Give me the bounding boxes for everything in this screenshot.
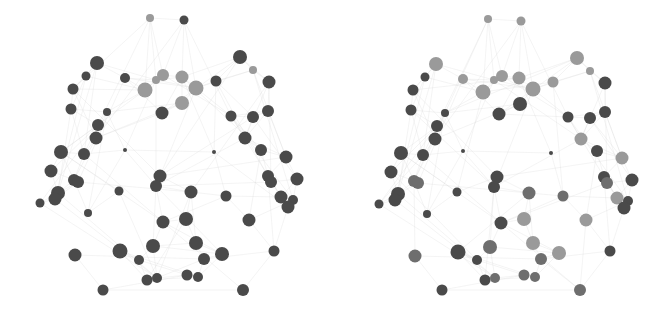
graph-node bbox=[453, 188, 462, 197]
graph-node bbox=[103, 108, 111, 116]
graph-edge bbox=[86, 76, 145, 90]
graph-edge bbox=[501, 196, 563, 223]
graph-edge bbox=[414, 181, 415, 256]
graph-node bbox=[69, 249, 82, 262]
graph-node bbox=[558, 191, 569, 202]
graph-edge bbox=[150, 18, 156, 80]
graph-edge bbox=[75, 255, 103, 290]
graph-node bbox=[549, 151, 553, 155]
graph-edge bbox=[413, 90, 497, 177]
graph-node bbox=[146, 239, 160, 253]
graph-node bbox=[255, 144, 267, 156]
graph-node bbox=[36, 199, 45, 208]
graph-node bbox=[570, 51, 584, 65]
graph-node bbox=[517, 17, 526, 26]
graph-node bbox=[72, 176, 84, 188]
graph-edge bbox=[269, 82, 271, 182]
graph-node bbox=[189, 236, 203, 250]
graph-node bbox=[618, 202, 631, 215]
graph-edge bbox=[40, 125, 98, 203]
graph-node bbox=[68, 84, 79, 95]
graph-node bbox=[513, 72, 526, 85]
graph-node bbox=[472, 255, 482, 265]
graph-node bbox=[176, 71, 189, 84]
graph-edge bbox=[398, 194, 495, 278]
graph-node bbox=[495, 217, 508, 230]
graph-node bbox=[626, 174, 639, 187]
graph-node bbox=[476, 85, 491, 100]
graph-edge bbox=[73, 89, 145, 90]
graph-edge bbox=[488, 19, 521, 21]
graph-node bbox=[45, 165, 58, 178]
graph-edge bbox=[494, 139, 581, 187]
network-graph-right bbox=[336, 0, 672, 315]
graph-node bbox=[90, 56, 104, 70]
graph-edge bbox=[477, 260, 524, 275]
graph-node bbox=[215, 247, 229, 261]
graph-node bbox=[574, 284, 586, 296]
graph-edge bbox=[411, 110, 423, 155]
graph-edge bbox=[502, 21, 521, 76]
graph-node bbox=[591, 145, 603, 157]
graph-node bbox=[616, 152, 629, 165]
graph-node bbox=[458, 74, 468, 84]
graph-edge bbox=[395, 200, 495, 278]
graph-edge bbox=[519, 21, 521, 78]
graph-node bbox=[226, 111, 237, 122]
graph-node bbox=[429, 133, 442, 146]
graph-edge bbox=[150, 18, 163, 75]
graph-node bbox=[262, 105, 274, 117]
graph-node bbox=[519, 270, 530, 281]
graph-node bbox=[54, 145, 68, 159]
graph-node bbox=[269, 246, 280, 257]
graph-edge bbox=[182, 57, 240, 77]
graph-edge bbox=[488, 19, 502, 76]
graph-node bbox=[179, 212, 193, 226]
graph-edge bbox=[163, 20, 184, 75]
graph-node bbox=[182, 270, 193, 281]
graph-edge bbox=[163, 196, 226, 222]
graph-node bbox=[156, 107, 169, 120]
graph-node bbox=[212, 150, 216, 154]
graph-node bbox=[211, 76, 222, 87]
graph-edge bbox=[411, 110, 494, 187]
graph-node bbox=[150, 180, 162, 192]
graph-edge bbox=[150, 18, 184, 20]
graph-node bbox=[49, 193, 62, 206]
graph-edge bbox=[379, 126, 437, 204]
graph-edge bbox=[119, 191, 157, 278]
graph-node bbox=[98, 285, 109, 296]
graph-edge bbox=[580, 251, 610, 290]
graph-node bbox=[233, 50, 247, 64]
graph-edge bbox=[84, 150, 125, 154]
graph-node bbox=[152, 76, 160, 84]
graph-node bbox=[198, 253, 210, 265]
graph-canvas-left bbox=[0, 0, 336, 315]
graph-node bbox=[429, 57, 443, 71]
graph-edge bbox=[457, 92, 483, 192]
graph-node bbox=[406, 105, 417, 116]
graph-edge bbox=[485, 187, 494, 280]
graph-edge bbox=[499, 114, 568, 117]
graph-node bbox=[280, 151, 293, 164]
graph-node bbox=[282, 201, 295, 214]
graph-node bbox=[82, 72, 91, 81]
graph-node bbox=[78, 148, 90, 160]
graph-node bbox=[421, 73, 430, 82]
graph-node bbox=[385, 166, 398, 179]
graph-node bbox=[523, 187, 536, 200]
graph-edge bbox=[379, 204, 495, 278]
graph-node bbox=[586, 67, 594, 75]
graph-node bbox=[451, 245, 466, 260]
graph-node bbox=[517, 212, 531, 226]
graph-edge bbox=[153, 246, 222, 254]
graph-edge bbox=[216, 81, 253, 117]
graph-node bbox=[408, 85, 419, 96]
graph-edge bbox=[182, 20, 184, 77]
graph-node bbox=[90, 132, 103, 145]
graph-node bbox=[263, 76, 276, 89]
graph-edge bbox=[274, 207, 288, 251]
graph-edge bbox=[490, 187, 494, 247]
graph-node bbox=[417, 149, 429, 161]
graph-node bbox=[84, 209, 92, 217]
